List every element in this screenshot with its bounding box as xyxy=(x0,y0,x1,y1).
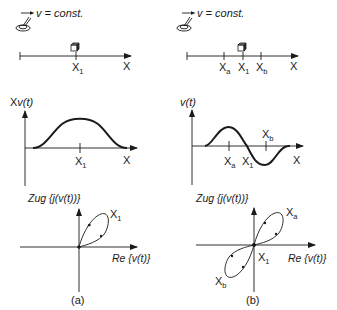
track-marker-xa: Xa xyxy=(219,62,231,73)
track-marker-x1: X1 xyxy=(238,62,250,73)
signal-marker-xb: Xb xyxy=(262,129,274,140)
signal-ylabel-a: Xv(t) xyxy=(10,97,33,108)
polar-xlabel-b: Re {v(t)} xyxy=(288,253,327,264)
signal-marker-a: X1 xyxy=(75,156,87,167)
signal-marker-xa: Xa xyxy=(224,156,236,167)
track-axis-a xyxy=(20,52,131,60)
polar-ylabel-a: Zug {j(v(t))} xyxy=(28,193,81,204)
caption-a: (a) xyxy=(71,294,84,306)
velocity-label-b: v = const. xyxy=(197,8,244,19)
cube-icon xyxy=(238,43,246,51)
cube-icon xyxy=(71,43,79,51)
polar-point-xa: Xa xyxy=(286,207,298,218)
track-axis-b xyxy=(187,52,298,60)
signal-marker-x1: X1 xyxy=(242,156,254,167)
polar-xlabel-a: Re {v(t)} xyxy=(112,253,151,264)
polar-point-a: X1 xyxy=(110,209,122,220)
track-axis-label-a: X xyxy=(123,61,130,72)
signal-plot-b xyxy=(192,110,303,185)
panel-a xyxy=(16,13,137,292)
track-marker-a: X1 xyxy=(72,62,84,73)
signal-axis-label-a: X xyxy=(123,155,130,166)
probe-icon xyxy=(177,13,193,31)
signal-plot-a xyxy=(25,111,137,186)
caption-b: (b) xyxy=(246,294,259,306)
diagram-canvas xyxy=(0,0,337,310)
track-axis-label-b: X xyxy=(290,61,297,72)
track-marker-xb: Xb xyxy=(256,62,268,73)
polar-point-x1: X1 xyxy=(258,252,270,263)
probe-icon xyxy=(16,13,32,31)
signal-axis-label-b: X xyxy=(293,155,300,166)
velocity-label-a: v = const. xyxy=(36,8,83,19)
polar-point-xb: Xb xyxy=(215,276,227,287)
polar-ylabel-b: Zug {j(v(t))} xyxy=(196,193,249,204)
signal-ylabel-b: v(t) xyxy=(180,97,196,108)
panel-b xyxy=(177,13,315,292)
